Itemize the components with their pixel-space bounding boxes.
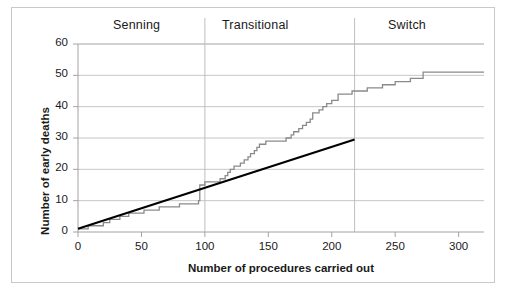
plot-canvas [0, 0, 511, 298]
y-tick-label-10: 10 [42, 193, 68, 205]
y-tick-label-20: 20 [42, 161, 68, 173]
y-tick-label-60: 60 [42, 36, 68, 48]
y-tick-label-50: 50 [42, 67, 68, 79]
x-tick-label-250: 250 [375, 240, 415, 252]
y-tick-label-30: 30 [42, 130, 68, 142]
cumulative-deaths-step-line [78, 72, 484, 229]
region-divider-lines [205, 18, 355, 232]
gridlines [78, 44, 484, 201]
x-tick-label-200: 200 [312, 240, 352, 252]
y-tick-label-0: 0 [42, 224, 68, 236]
y-tick-label-40: 40 [42, 99, 68, 111]
x-tick-label-150: 150 [248, 240, 288, 252]
chart-figure: Senning Transitional Switch Number of ea… [0, 0, 511, 298]
reference-straight-line [78, 140, 355, 229]
y-tick-marks [73, 44, 78, 232]
x-tick-label-300: 300 [439, 240, 479, 252]
x-tick-label-0: 0 [58, 240, 98, 252]
x-tick-label-100: 100 [185, 240, 225, 252]
x-tick-label-50: 50 [121, 240, 161, 252]
x-tick-marks [78, 232, 459, 237]
